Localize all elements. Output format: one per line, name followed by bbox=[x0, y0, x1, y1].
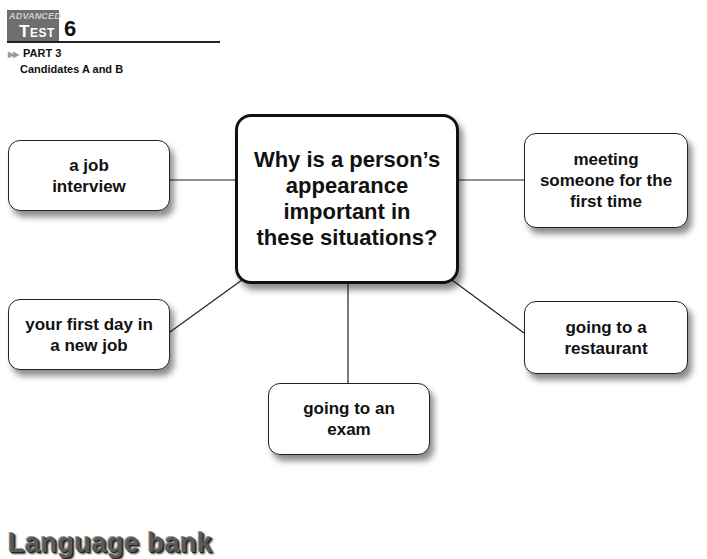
prompt-text: your first day in a new job bbox=[19, 314, 159, 356]
prompt-text: meeting someone for the first time bbox=[535, 149, 677, 212]
language-bank-heading: Language bank bbox=[8, 528, 213, 559]
prompt-meeting-someone: meeting someone for the first time bbox=[524, 133, 688, 228]
prompt-going-to-restaurant: going to a restaurant bbox=[524, 301, 688, 374]
central-question: Why is a person’s appearance important i… bbox=[238, 147, 456, 251]
prompt-text: a job interview bbox=[39, 155, 139, 197]
prompt-text: going to a restaurant bbox=[543, 317, 669, 359]
prompt-job-interview: a job interview bbox=[8, 140, 170, 211]
prompt-going-to-exam: going to an exam bbox=[268, 383, 430, 455]
prompt-text: going to an exam bbox=[299, 398, 399, 440]
central-question-box: Why is a person’s appearance important i… bbox=[235, 114, 459, 284]
prompt-first-day-new-job: your first day in a new job bbox=[8, 299, 170, 370]
